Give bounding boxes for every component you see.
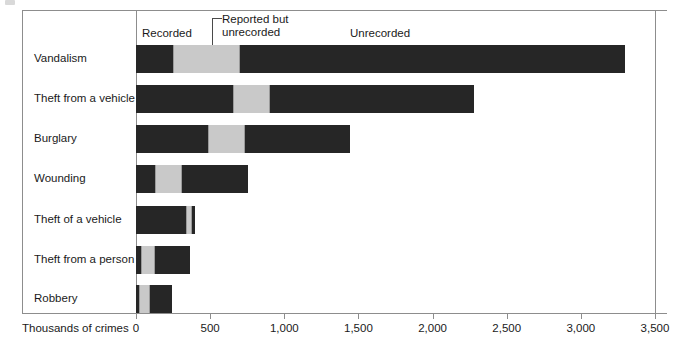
caption-remnant xyxy=(5,0,15,5)
legend-item-recorded: Recorded xyxy=(142,27,192,40)
x-axis-tick-label: 3,000 xyxy=(566,322,595,334)
bar-segment-unrecorded xyxy=(240,45,626,73)
bar-row xyxy=(136,246,190,274)
x-axis-title: Thousands of crimes xyxy=(22,322,129,334)
category-label: Wounding xyxy=(34,172,86,184)
x-axis-tick xyxy=(581,313,582,319)
bar-segment-reported-but-unrecorded xyxy=(208,125,245,153)
bar-segment-unrecorded xyxy=(150,285,172,313)
category-label: Robbery xyxy=(34,292,77,304)
crime-recording-stacked-bar-chart: Recorded Reported but unrecorded Unrecor… xyxy=(0,0,674,352)
x-axis-tick xyxy=(210,313,211,319)
category-label: Burglary xyxy=(34,132,77,144)
bar-row xyxy=(136,125,350,153)
bar-segment-reported-but-unrecorded xyxy=(139,285,150,313)
bar-segment-recorded xyxy=(136,125,208,153)
x-axis-tick xyxy=(433,313,434,319)
legend-leader-horizontal xyxy=(212,18,222,19)
x-axis-tick xyxy=(358,313,359,319)
bar-segment-reported-but-unrecorded xyxy=(173,45,240,73)
bar-segment-unrecorded xyxy=(182,165,248,193)
x-axis-tick-label: 1,000 xyxy=(270,322,299,334)
category-label: Vandalism xyxy=(34,52,87,64)
category-label: Theft of a vehicle xyxy=(34,213,122,225)
bar-segment-reported-but-unrecorded xyxy=(141,246,155,274)
x-axis-tick-label: 2,000 xyxy=(418,322,447,334)
x-axis-tick-label: 500 xyxy=(201,322,220,334)
bar-row xyxy=(136,285,172,313)
bar-row xyxy=(136,206,195,234)
legend-leader-vertical xyxy=(212,18,213,48)
x-axis-tick xyxy=(655,313,656,319)
bar-row xyxy=(136,165,248,193)
bar-segment-unrecorded xyxy=(270,85,474,113)
chart-frame-right xyxy=(655,10,656,313)
chart-frame-left xyxy=(22,10,23,313)
bar-row xyxy=(136,45,625,73)
bar-segment-recorded xyxy=(136,45,173,73)
x-axis-line xyxy=(22,313,667,314)
x-axis-tick-label: 3,500 xyxy=(641,322,670,334)
category-label: Theft from a vehicle xyxy=(34,92,135,104)
x-axis-tick-label: 2,500 xyxy=(492,322,521,334)
bar-segment-reported-but-unrecorded xyxy=(155,165,182,193)
bar-segment-recorded xyxy=(136,206,186,234)
bar-segment-unrecorded xyxy=(245,125,350,153)
bar-segment-recorded xyxy=(136,165,155,193)
bar-row xyxy=(136,85,474,113)
category-label: Theft from a person xyxy=(34,253,134,265)
legend-item-reported-but-unrecorded-line2: unrecorded xyxy=(222,26,289,39)
x-axis-tick xyxy=(507,313,508,319)
x-axis-tick-label: 1,500 xyxy=(344,322,373,334)
bar-segment-unrecorded xyxy=(155,246,190,274)
legend-item-reported-but-unrecorded: Reported but unrecorded xyxy=(222,13,289,39)
x-axis-tick-label: 0 xyxy=(133,322,139,334)
x-axis-tick xyxy=(136,313,137,319)
x-axis-tick xyxy=(284,313,285,319)
legend: Recorded Reported but unrecorded Unrecor… xyxy=(136,10,667,46)
bar-segment-recorded xyxy=(136,85,233,113)
legend-item-unrecorded: Unrecorded xyxy=(350,27,410,40)
bar-segment-unrecorded xyxy=(192,206,196,234)
bar-segment-reported-but-unrecorded xyxy=(233,85,270,113)
legend-item-reported-but-unrecorded-line1: Reported but xyxy=(222,13,289,26)
